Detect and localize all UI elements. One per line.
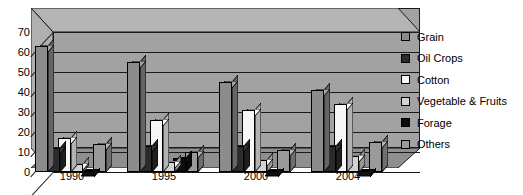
- y-axis-tick-label: 20: [0, 127, 30, 138]
- bar-front-face: [311, 90, 324, 172]
- bar-side-face: [198, 145, 204, 172]
- legend-swatch-icon: [401, 32, 410, 41]
- legend-item-others[interactable]: Others: [401, 134, 523, 156]
- bar-front-face: [127, 62, 140, 172]
- y-axis-tick-label: 0: [0, 167, 30, 178]
- bar: [35, 39, 54, 172]
- bar-side-face: [83, 157, 89, 172]
- bar-side-face: [152, 139, 158, 172]
- y-axis-tick-label: 50: [0, 67, 30, 78]
- bars-layer: [31, 8, 420, 166]
- bar: [127, 55, 146, 172]
- y-axis: 010203040506070: [0, 0, 30, 195]
- bar: [311, 83, 330, 172]
- y-axis-tick-label: 30: [0, 107, 30, 118]
- bar-side-face: [163, 113, 169, 172]
- bar-side-face: [370, 163, 376, 172]
- legend-item-label: Others: [417, 138, 450, 150]
- legend-item-label: Forage: [417, 117, 452, 129]
- legend-item-cotton[interactable]: Cotton: [401, 69, 523, 91]
- bar-side-face: [347, 97, 353, 172]
- bar-chart: 010203040506070 1990199520002004 GrainOi…: [0, 0, 523, 195]
- bar-front-face: [219, 82, 232, 172]
- legend-swatch-icon: [401, 118, 410, 127]
- y-axis-tick-label: 70: [0, 27, 30, 38]
- bar-side-face: [60, 141, 66, 172]
- bar-side-face: [186, 151, 192, 172]
- x-axis: 1990199520002004: [31, 170, 420, 190]
- bar-side-face: [336, 139, 342, 172]
- legend-swatch-icon: [401, 97, 410, 106]
- bar-side-face: [382, 135, 388, 172]
- bar-side-face: [255, 103, 261, 172]
- legend-swatch-icon: [401, 140, 410, 149]
- bar-side-face: [267, 153, 273, 172]
- bar-side-face: [278, 163, 284, 172]
- y-axis-tick-label: 40: [0, 87, 30, 98]
- plot-area: [31, 8, 420, 166]
- legend-item-forage[interactable]: Forage: [401, 112, 523, 134]
- legend-item-label: Grain: [417, 31, 444, 43]
- legend-item-oil-crops[interactable]: Oil Crops: [401, 48, 523, 70]
- legend-item-grain[interactable]: Grain: [401, 26, 523, 48]
- bar-side-face: [232, 75, 238, 172]
- bar-side-face: [290, 143, 296, 172]
- bar-side-face: [140, 55, 146, 172]
- legend-item-label: Oil Crops: [417, 52, 463, 64]
- bar-side-face: [94, 163, 100, 172]
- bar-side-face: [244, 139, 250, 172]
- bar-side-face: [359, 149, 365, 172]
- bar: [219, 75, 238, 172]
- bar-side-face: [71, 131, 77, 172]
- legend-item-vegetable-fruits[interactable]: Vegetable & Fruits: [401, 91, 523, 113]
- legend: GrainOil CropsCottonVegetable & FruitsFo…: [401, 26, 523, 155]
- bar-side-face: [324, 83, 330, 172]
- bar-side-face: [48, 39, 54, 172]
- legend-swatch-icon: [401, 54, 410, 63]
- legend-swatch-icon: [401, 75, 410, 84]
- bar-side-face: [175, 155, 181, 172]
- legend-item-label: Cotton: [417, 74, 449, 86]
- bar-front-face: [35, 46, 48, 172]
- y-axis-tick-label: 60: [0, 47, 30, 58]
- bar-side-face: [106, 137, 112, 172]
- y-axis-tick-label: 10: [0, 147, 30, 158]
- legend-item-label: Vegetable & Fruits: [417, 95, 507, 107]
